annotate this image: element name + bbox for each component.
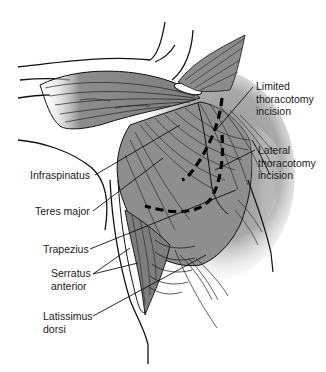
label-teres-major: Teres major	[35, 205, 90, 218]
label-infraspinatus: Infraspinatus	[30, 169, 90, 182]
label-lateral-thoracotomy-incision: Lateral thoracotomy incision	[258, 144, 316, 182]
anatomy-figure: Limited thoracotomy incision Lateral tho…	[0, 0, 326, 372]
label-latissimus-dorsi: Latissimus dorsi	[43, 310, 93, 335]
label-limited-thoracotomy-incision: Limited thoracotomy incision	[256, 80, 314, 118]
label-serratus-anterior: Serratus anterior	[51, 267, 91, 292]
label-trapezius: Trapezius	[43, 243, 89, 256]
